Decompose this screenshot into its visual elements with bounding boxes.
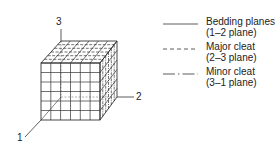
legend-label: Minor cleat: [206, 66, 257, 77]
legend-plane: (3–1 plane): [206, 77, 257, 88]
solid-line-icon: [163, 23, 198, 25]
cube: [41, 41, 117, 120]
legend-label: Major cleat: [206, 41, 257, 52]
legend-label: Bedding planes: [206, 16, 275, 27]
axis-2-label: 2: [136, 92, 142, 102]
dash-dot-line-icon: [163, 73, 198, 75]
axis-3-label: 3: [56, 17, 62, 27]
legend: Bedding planes (1–2 plane) Major cleat (…: [160, 16, 276, 91]
legend-item-major-cleat: Major cleat (2–3 plane): [160, 41, 276, 66]
axis-1-line: [25, 120, 41, 137]
legend-plane: (2–3 plane): [206, 52, 257, 63]
legend-item-minor-cleat: Minor cleat (3–1 plane): [160, 66, 276, 91]
axis-1-label: 1: [17, 133, 23, 143]
legend-plane: (1–2 plane): [206, 27, 275, 38]
dashed-line-icon: [163, 48, 198, 50]
legend-item-bedding-planes: Bedding planes (1–2 plane): [160, 16, 276, 41]
